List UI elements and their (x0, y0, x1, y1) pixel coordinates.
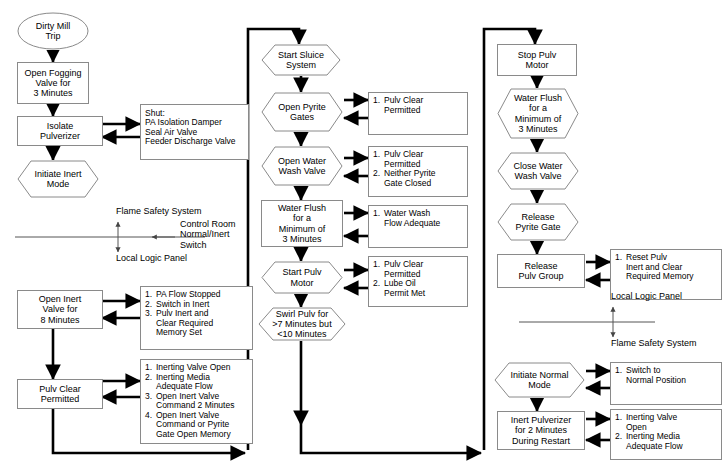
list-item-number: 1. (615, 413, 626, 432)
list-body: 1.Pulv ClearPermitted2.Neither PyriteGat… (373, 150, 465, 188)
list-item-text: Inerting MediaAdequate Flow (626, 432, 719, 451)
node-initiate-inert-mode[interactable]: Initiate InertMode (17, 160, 99, 198)
list-body: 1.Water WashFlow Adequate (373, 209, 465, 228)
list-item: 1.Inerting ValveOpen (615, 413, 719, 432)
list-item-number: 1. (615, 366, 626, 385)
list-start-pulv-motor-conditions[interactable]: 1.Pulv ClearPermitted2.Lube OilPermit Me… (368, 256, 468, 307)
list-item-number: 4. (145, 411, 156, 440)
list-item: 1.Water WashFlow Adequate (373, 209, 465, 228)
list-item-number: 1. (373, 209, 384, 228)
list-item-number: 2. (373, 169, 384, 188)
node-label: Close WaterWash Valve (511, 161, 564, 181)
list-item: 3.Pulv Inert andClear RequiredMemory Set (145, 309, 250, 338)
node-close-water-wash-valve[interactable]: Close WaterWash Valve (497, 152, 579, 190)
list-item-text: Reset PulvInert and ClearRequired Memory (626, 253, 719, 282)
node-label: Inert Pulverizerfor 2 MinutesDuring Rest… (509, 415, 574, 445)
list-item: 2.Inerting MediaAdequate Flow (145, 373, 250, 392)
list-item: 1.Pulv ClearPermitted (373, 260, 465, 279)
list-item: 1.Pulv ClearPermitted (373, 96, 465, 115)
node-label: Open FoggingValve for3 Minutes (22, 68, 83, 98)
list-item-text: Open Inert ValveCommand 2 Minutes (156, 392, 250, 411)
list-initiate-normal-mode-conditions[interactable]: 1.Switch toNormal Position (610, 362, 722, 405)
list-item: 2.Lube OilPermit Met (373, 279, 465, 298)
list-item-text: Pulv Inert andClear RequiredMemory Set (156, 309, 250, 338)
list-item-text: Water WashFlow Adequate (384, 209, 465, 228)
node-pulv-clear-permitted[interactable]: Pulv ClearPermitted (17, 379, 103, 409)
list-body: 1.Inerting Valve Open2.Inerting MediaAde… (145, 363, 250, 439)
list-item-number: 2. (615, 432, 626, 451)
list-item: 1.Pulv ClearPermitted (373, 150, 465, 169)
list-item-number: 2. (373, 279, 384, 298)
node-label: Water Flushfor aMinimum of3 Minutes (512, 93, 564, 133)
list-item-number: 2. (145, 373, 156, 392)
list-item: 1.Switch toNormal Position (615, 366, 719, 385)
list-item-number: 1. (373, 260, 384, 279)
node-isolate-pulverizer[interactable]: IsolatePulverizer (17, 116, 103, 146)
node-swirl-pulv[interactable]: Swirl Pulv for>7 Minutes but<10 Minutes (258, 307, 346, 341)
list-item-text: Pulv ClearPermitted (384, 150, 465, 169)
node-label: Initiate NormalMode (508, 370, 570, 390)
node-label: Stop PulvMotor (516, 50, 559, 70)
list-open-water-wash-valve-conditions[interactable]: 1.Pulv ClearPermitted2.Neither PyriteGat… (368, 146, 468, 197)
left-divider-side-label: Control RoomNormal/InertSwitch (180, 219, 236, 250)
list-item-text: Pulv ClearPermitted (384, 96, 465, 115)
list-inert-pulverizer-conditions[interactable]: 1.Inerting ValveOpen2.Inerting MediaAdeq… (610, 409, 722, 460)
node-label: Open WaterWash Valve (276, 156, 328, 176)
left-divider-lines (15, 222, 205, 252)
node-dirty-mill-trip[interactable]: Dirty MillTrip (17, 12, 89, 50)
list-item: 3.Open Inert ValveCommand 2 Minutes (145, 392, 250, 411)
node-inert-pulverizer[interactable]: Inert Pulverizerfor 2 MinutesDuring Rest… (497, 411, 585, 450)
list-item-number: 1. (615, 253, 626, 282)
node-initiate-normal-mode[interactable]: Initiate NormalMode (494, 362, 585, 398)
list-shut-items[interactable]: Shut: PA Isolation DamperSeal Air ValveF… (140, 104, 249, 160)
node-open-inert-valve[interactable]: Open InertValve for8 Minutes (17, 290, 103, 329)
node-start-sluice-system[interactable]: Start SluiceSystem (261, 44, 341, 76)
list-item: 2.Neither PyriteGate Closed (373, 169, 465, 188)
node-release-pyrite-gate[interactable]: ReleasePyrite Gate (497, 203, 579, 241)
list-body: 1.Reset PulvInert and ClearRequired Memo… (615, 253, 719, 282)
left-divider-above-label: Flame Safety System (116, 206, 202, 216)
left-divider-below-label: Local Logic Panel (116, 253, 187, 263)
node-water-flush-middle[interactable]: Water Flushfor aMinimum of3 Minutes (261, 200, 343, 247)
node-water-flush-right[interactable]: Water Flushfor aMinimum of3 Minutes (497, 88, 579, 139)
node-open-pyrite-gates[interactable]: Open PyriteGates (261, 92, 343, 132)
flowchart-canvas: Dirty MillTrip Open FoggingValve for3 Mi… (0, 0, 727, 465)
list-open-inert-valve-conditions[interactable]: 1.PA Flow Stopped2.Switch in Inert3.Pulv… (140, 286, 253, 350)
list-item-number: 1. (373, 150, 384, 169)
list-water-flush-conditions[interactable]: 1.Water WashFlow Adequate (368, 205, 468, 248)
list-item-number: 3. (145, 392, 156, 411)
node-label: ReleasePulv Group (516, 261, 565, 281)
node-open-water-wash-valve[interactable]: Open WaterWash Valve (261, 146, 343, 186)
node-release-pulv-group[interactable]: ReleasePulv Group (497, 254, 585, 288)
node-label: Open PyriteGates (276, 102, 328, 122)
list-pulv-clear-conditions[interactable]: 1.Inerting Valve Open2.Inerting MediaAde… (140, 359, 253, 444)
list-item: 2.Inerting MediaAdequate Flow (615, 432, 719, 451)
list-item: 1.Reset PulvInert and ClearRequired Memo… (615, 253, 719, 282)
list-body: 1.PA Flow Stopped2.Switch in Inert3.Pulv… (145, 290, 250, 338)
node-label: Start PulvMotor (280, 267, 323, 287)
list-body: PA Isolation DamperSeal Air ValveFeeder … (145, 118, 246, 147)
list-item-number: 1. (373, 96, 384, 115)
list-item-text: Neither PyriteGate Closed (384, 169, 465, 188)
list-body: 1.Pulv ClearPermitted (373, 96, 465, 115)
right-divider-below-label: Flame Safety System (611, 338, 697, 348)
right-divider-above-label: Local Logic Panel (611, 291, 682, 301)
node-label: Open InertValve for8 Minutes (37, 294, 84, 324)
node-stop-pulv-motor[interactable]: Stop PulvMotor (497, 44, 577, 76)
list-body: 1.Inerting ValveOpen2.Inerting MediaAdeq… (615, 413, 719, 451)
list-item: 4.Open Inert ValveCommand or PyriteGate … (145, 411, 250, 440)
node-start-pulv-motor[interactable]: Start PulvMotor (261, 261, 343, 294)
list-item-text: Open Inert ValveCommand or PyriteGate Op… (156, 411, 250, 440)
list-item-text: Switch toNormal Position (626, 366, 719, 385)
list-body: 1.Pulv ClearPermitted2.Lube OilPermit Me… (373, 260, 465, 298)
node-label: Water Flushfor aMinimum of3 Minutes (276, 203, 328, 243)
node-label: Dirty MillTrip (34, 21, 73, 41)
node-label: IsolatePulverizer (38, 121, 82, 141)
list-item-number: 3. (145, 309, 156, 338)
node-open-fogging-valve[interactable]: Open FoggingValve for3 Minutes (17, 62, 89, 104)
list-body: 1.Switch toNormal Position (615, 366, 719, 385)
list-item-text: Inerting MediaAdequate Flow (156, 373, 250, 392)
node-label: Start SluiceSystem (276, 50, 326, 70)
list-open-pyrite-gates-conditions[interactable]: 1.Pulv ClearPermitted (368, 92, 468, 135)
list-item-text: Inerting ValveOpen (626, 413, 719, 432)
